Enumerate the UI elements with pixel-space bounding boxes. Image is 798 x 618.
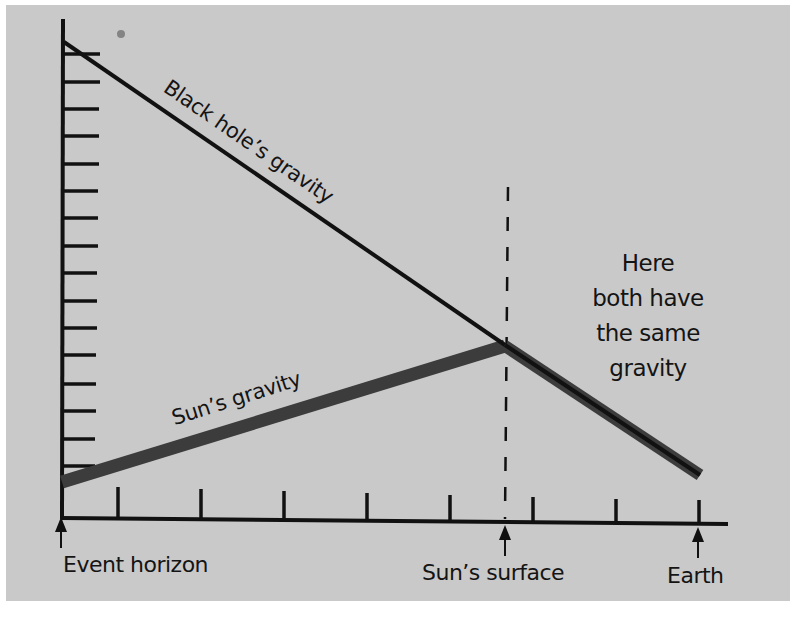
black-hole-gravity-line bbox=[64, 42, 505, 345]
y-axis bbox=[62, 19, 63, 519]
arrow-up-icon bbox=[692, 527, 704, 558]
note-line: Here bbox=[578, 246, 718, 281]
note-line: both have bbox=[578, 281, 718, 316]
arrow-up-icon bbox=[499, 525, 511, 556]
sun-gravity-line bbox=[62, 346, 505, 482]
x-axis bbox=[61, 518, 728, 524]
suns-surface-label: Sun’s surface bbox=[422, 560, 564, 585]
note-line: the same bbox=[578, 316, 718, 351]
equal-gravity-note: Here both have the same gravity bbox=[578, 246, 718, 386]
event-horizon-label: Event horizon bbox=[63, 552, 208, 577]
earth-label: Earth bbox=[667, 563, 724, 588]
y-axis-ticks bbox=[62, 54, 100, 466]
smudge-dot bbox=[117, 30, 125, 38]
arrow-up-icon bbox=[55, 517, 67, 548]
note-line: gravity bbox=[578, 351, 718, 386]
